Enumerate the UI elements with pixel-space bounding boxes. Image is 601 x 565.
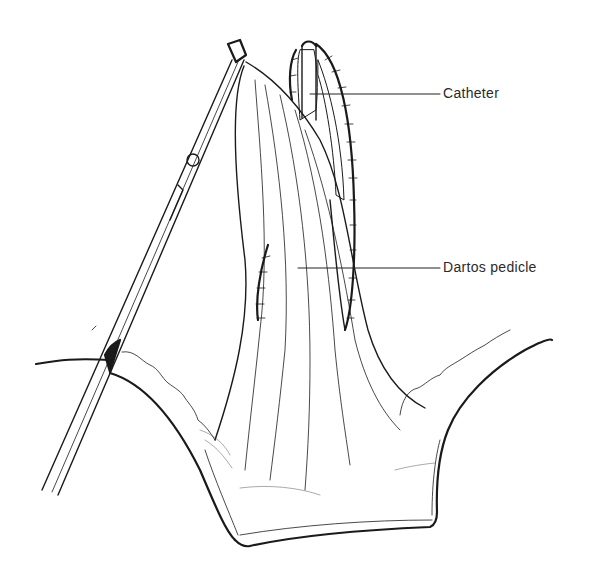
illustration-drawing (0, 0, 601, 565)
dartos-pedicle (200, 62, 435, 495)
catheter-label: Catheter (443, 85, 499, 101)
surgical-illustration: Catheter Dartos pedicle (0, 0, 601, 565)
forceps-instrument (42, 40, 246, 495)
sutured-flap (256, 44, 357, 330)
wound-flap (205, 339, 552, 546)
catheter-tube (298, 42, 344, 201)
dartos-pedicle-label: Dartos pedicle (443, 259, 537, 275)
